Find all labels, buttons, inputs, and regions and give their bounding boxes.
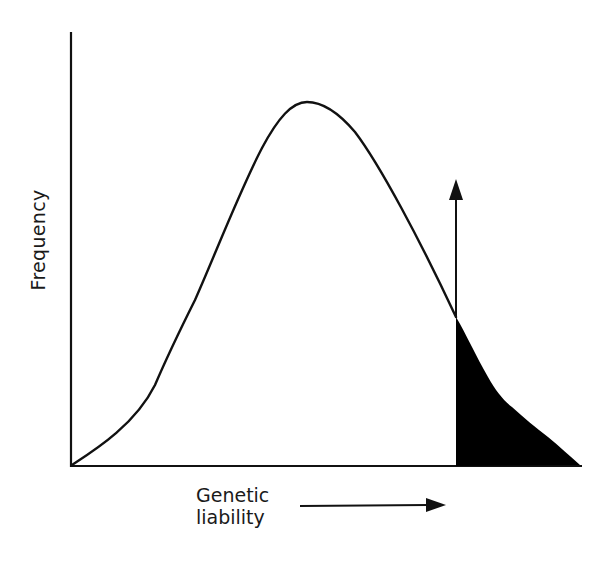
affected-shaded-tail <box>456 317 580 466</box>
y-axis-label-text: Frequency <box>27 190 49 291</box>
x-axis-label-line1: Genetic <box>196 484 269 506</box>
x-axis-label-line2: liability <box>196 506 269 528</box>
threshold-arrowhead-icon <box>449 179 463 200</box>
x-direction-arrowhead-icon <box>426 498 446 512</box>
x-direction-arrow-line <box>300 505 428 506</box>
liability-distribution-curve <box>72 102 456 465</box>
x-axis-label: Genetic liability <box>196 484 269 528</box>
liability-threshold-diagram <box>0 0 613 565</box>
